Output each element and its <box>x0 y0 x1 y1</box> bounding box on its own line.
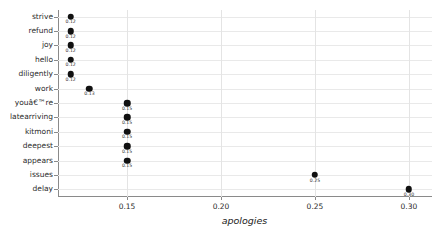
category-axis-tick-mark <box>54 132 58 133</box>
x-axis-tick-mark <box>315 197 316 201</box>
category-axis-tick-label: youâ€™re <box>15 99 53 107</box>
data-point-value-label: 0.15 <box>122 135 132 140</box>
category-axis-tick-mark <box>54 45 58 46</box>
gridline-horizontal <box>58 60 432 61</box>
category-axis-tick-label: latearriving <box>10 114 53 122</box>
gridline-vertical <box>409 10 410 197</box>
x-axis-tick-label: 0.20 <box>213 203 230 211</box>
data-point-value-label: 0.12 <box>66 63 76 68</box>
data-point-value-label: 0.15 <box>122 107 132 112</box>
category-axis-tick-label: joy <box>42 42 53 50</box>
gridline-horizontal <box>58 45 432 46</box>
data-point-value-label: 0.13 <box>84 92 94 97</box>
x-axis-tick-mark <box>409 197 410 201</box>
category-axis-tick-mark <box>54 175 58 176</box>
gridline-horizontal <box>58 103 432 104</box>
dot-plot-chart: striverefundjoyhellodiligentlyworkyouâ€™… <box>0 0 439 236</box>
category-axis-tick-label: appears <box>23 157 53 165</box>
gridline-horizontal <box>58 74 432 75</box>
data-point-value-label: 0.12 <box>66 49 76 54</box>
category-axis-tick-mark <box>54 146 58 147</box>
category-axis-tick-mark <box>54 117 58 118</box>
gridline-vertical <box>221 10 222 197</box>
gridline-horizontal <box>58 132 432 133</box>
category-axis-tick-mark <box>54 60 58 61</box>
gridline-horizontal <box>58 175 432 176</box>
data-point-value-label: 0.15 <box>122 121 132 126</box>
x-axis-tick-label: 0.15 <box>119 203 136 211</box>
x-axis-title: apologies <box>222 216 268 226</box>
category-axis-tick-mark <box>54 31 58 32</box>
category-axis-tick-mark <box>54 161 58 162</box>
category-axis-tick-label: delay <box>33 186 54 194</box>
gridline-horizontal <box>58 31 432 32</box>
data-point-value-label: 0.12 <box>66 20 76 25</box>
category-axis-tick-label: issues <box>30 171 53 179</box>
category-axis-tick-label: strive <box>32 13 53 21</box>
category-axis-tick-mark <box>54 74 58 75</box>
category-axis-tick-label: deepest <box>23 142 53 150</box>
category-axis-tick-label: kitmoni <box>25 128 53 136</box>
category-axis-labels: striverefundjoyhellodiligentlyworkyouâ€™… <box>0 0 53 236</box>
category-axis-tick-label: work <box>35 85 53 93</box>
category-axis-tick-label: diligently <box>18 70 53 78</box>
category-axis-tick-mark <box>54 89 58 90</box>
category-axis-tick-label: refund <box>29 27 53 35</box>
x-axis-tick-label: 0.25 <box>307 203 324 211</box>
gridline-horizontal <box>58 117 432 118</box>
category-axis-tick-mark <box>54 189 58 190</box>
data-point-value-label: 0.15 <box>122 164 132 169</box>
gridline-vertical <box>315 10 316 197</box>
data-point-value-label: 0.15 <box>122 150 132 155</box>
data-point-value-label: 0.12 <box>66 35 76 40</box>
gridline-horizontal <box>58 17 432 18</box>
gridline-horizontal <box>58 146 432 147</box>
gridline-horizontal <box>58 189 432 190</box>
data-point-value-label: 0.12 <box>66 78 76 83</box>
gridline-horizontal <box>58 89 432 90</box>
category-axis-tick-mark <box>54 103 58 104</box>
category-axis-tick-label: hello <box>35 56 53 64</box>
category-axis-tick-mark <box>54 17 58 18</box>
gridline-horizontal <box>58 161 432 162</box>
x-axis-tick-mark <box>127 197 128 201</box>
x-axis-tick-label: 0.30 <box>401 203 418 211</box>
data-point-value-label: 0.25 <box>310 179 320 184</box>
x-axis-tick-mark <box>221 197 222 201</box>
